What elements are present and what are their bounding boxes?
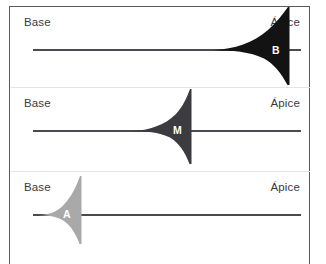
panel-a-lesion-shape bbox=[10, 172, 311, 264]
panel-m-letter: M bbox=[173, 125, 182, 136]
panel-b: Base Ápice B bbox=[10, 7, 311, 87]
panel-b-letter: B bbox=[272, 45, 280, 56]
panel-a: Base Ápice A bbox=[10, 172, 311, 264]
panel-b-lesion-shape bbox=[10, 7, 311, 87]
panel-m: Base Ápice M bbox=[10, 88, 311, 171]
panel-m-lesion-shape bbox=[10, 88, 311, 171]
figure-canvas: Base Ápice B Base Ápice M Base Ápice bbox=[0, 0, 326, 264]
figure-frame: Base Ápice B Base Ápice M Base Ápice bbox=[9, 6, 310, 264]
panel-a-letter: A bbox=[63, 209, 71, 220]
